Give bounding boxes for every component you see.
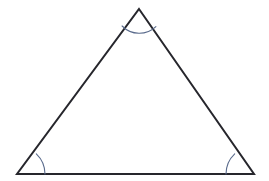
bottom-right-angle-arc [226,154,235,174]
bottom-left-angle-arc [36,154,45,174]
triangle-outline [17,9,254,174]
triangle-diagram-svg: Triangle with marked interior angles [0,0,269,181]
geometry-figure-canvas: Triangle with marked interior angles [0,0,269,181]
